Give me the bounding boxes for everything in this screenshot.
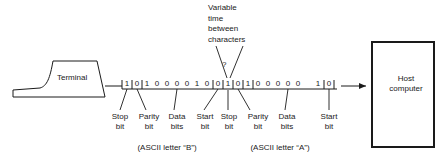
host-computer-label-line2: computer <box>389 84 422 93</box>
char-b-bit-7: 1 <box>193 79 202 88</box>
question-mark-marker: ? <box>222 60 226 69</box>
variable-time-leaders <box>216 46 243 78</box>
char-b-stop-bit-label-line1: Stop <box>112 112 128 121</box>
char-b-start-bit-label-line1: Start <box>197 112 214 121</box>
char-a-ascii-caption: (ASCII letter “A”) <box>225 143 335 152</box>
char-a-bit-3: 0 <box>254 79 263 88</box>
char-a-bit-0: 1 <box>224 79 233 88</box>
variable-time-line3: between <box>208 24 238 33</box>
char-a-start-bit-label-line2: bit <box>325 122 333 131</box>
char-a-data-bits-label-line1: Data <box>279 112 296 121</box>
char-b-bit-2: 1 <box>143 79 152 88</box>
char-a-stop-bit-label-line2: bit <box>225 122 233 131</box>
host-computer-label: Hostcomputer <box>383 74 429 95</box>
char-a-data-bits-label-line2: bits <box>281 122 293 131</box>
char-a-data-bits-label: Databits <box>270 112 304 132</box>
char-a-stop-bit-label-line1: Stop <box>221 112 237 121</box>
char-a-parity-bit-label-line2: bit <box>254 122 262 131</box>
char-b-parity-bit-label-line1: Parity <box>139 112 159 121</box>
char-b-data-bits-label-line1: Data <box>169 112 186 121</box>
char-a-bit-8: 1 <box>314 79 323 88</box>
char-a-bit-6: 0 <box>284 79 293 88</box>
variable-time-line2: time <box>208 14 223 23</box>
char-b-bit-0: 1 <box>123 79 132 88</box>
terminal-label: Terminal <box>57 73 87 82</box>
variable-time-line1: Variable <box>208 3 237 12</box>
char-b-label-leaders <box>120 89 218 110</box>
variable-time-line4: characters <box>208 35 245 44</box>
char-b-bit-6: 0 <box>183 79 192 88</box>
char-a-bit-5: 0 <box>274 79 283 88</box>
char-a-bit-7: 0 <box>294 79 303 88</box>
char-b-bit-5: 0 <box>173 79 182 88</box>
char-a-label-leaders <box>228 89 329 110</box>
char-b-data-bits-label-line2: bits <box>171 122 183 131</box>
char-b-stop-bit-label-line2: bit <box>116 122 124 131</box>
char-b-bit-9: 0 <box>214 79 223 88</box>
serial-transmission-diagram: Terminal Hostcomputer Variabletimebetwee… <box>0 0 439 162</box>
char-b-bit-8: 0 <box>203 79 212 88</box>
char-a-bit-9: 0 <box>325 79 334 88</box>
char-a-parity-bit-label-line1: Parity <box>248 112 268 121</box>
host-computer-label-line1: Host <box>398 74 414 83</box>
char-a-bit-1: 0 <box>234 79 243 88</box>
char-b-parity-bit-label-line2: bit <box>145 122 153 131</box>
stream-to-host-arrow <box>341 83 366 89</box>
char-a-start-bit-label-line1: Start <box>321 112 338 121</box>
char-b-start-bit-label-line2: bit <box>201 122 209 131</box>
char-a-start-bit-label: Startbit <box>312 112 346 132</box>
variable-time-annotation: Variabletimebetweencharacters <box>208 3 245 45</box>
char-b-bit-3: 0 <box>153 79 162 88</box>
char-b-ascii-caption: (ASCII letter “B”) <box>112 143 222 152</box>
char-b-bit-4: 0 <box>163 79 172 88</box>
char-b-bit-1: 0 <box>133 79 142 88</box>
char-a-bit-2: 1 <box>244 79 253 88</box>
char-a-bit-4: 0 <box>264 79 273 88</box>
